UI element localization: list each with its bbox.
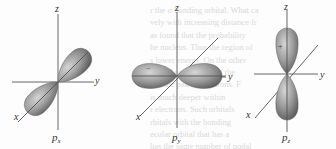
orbital-diagram: z y x px − z x py y + z y <box>0 0 336 149</box>
z-axis-label: z <box>283 1 288 12</box>
px-orbital: z y x px <box>12 3 100 145</box>
x-axis-label: x <box>245 109 251 120</box>
sign-mark-plus: + <box>278 42 283 51</box>
sign-mark-minus: − <box>146 64 151 73</box>
x-axis-label: x <box>135 111 141 122</box>
x-axis-line <box>18 52 88 122</box>
pz-orbital: y + z y x pz <box>220 1 325 145</box>
py-orbital: − z x py <box>132 2 226 145</box>
y-axis-label: y <box>94 75 100 86</box>
orbital-label-pz: pz <box>281 131 291 145</box>
z-axis-label: z <box>174 2 179 13</box>
x-axis-label: x <box>13 111 19 122</box>
y-axis-label: y <box>319 69 325 80</box>
figure-canvas: r the σ bonding orbital. What ca vely wi… <box>0 0 336 149</box>
orbital-label-px: px <box>51 131 62 145</box>
z-axis-label: z <box>54 3 59 14</box>
orbital-label-py: py <box>171 131 182 145</box>
left-y-axis-label: y <box>227 71 233 82</box>
